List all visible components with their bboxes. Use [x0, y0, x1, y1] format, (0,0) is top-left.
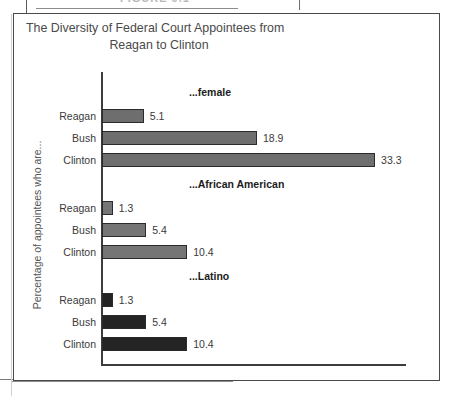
bar-row: Reagan1.3: [14, 201, 441, 216]
bar-value-label: 1.3: [119, 294, 134, 306]
bar-row: Clinton33.3: [14, 153, 441, 168]
bar: [102, 245, 187, 259]
bar: [102, 131, 257, 145]
page-rule-vertical-left: [26, 0, 27, 14]
bar: [102, 337, 187, 351]
bar-row: Reagan1.3: [14, 293, 441, 308]
bar-value-label: 10.4: [193, 338, 213, 350]
bar-category-label: Reagan: [14, 294, 96, 306]
bar-value-label: 5.1: [150, 110, 165, 122]
bar-row: Bush5.4: [14, 223, 441, 238]
bar-value-label: 5.4: [152, 224, 167, 236]
bar-category-label: Reagan: [14, 202, 96, 214]
bar-category-label: Bush: [14, 224, 96, 236]
bar: [102, 293, 113, 307]
page-rule-vertical-mid: [299, 0, 300, 10]
bar-group-title: ...African American: [189, 178, 284, 190]
bar-category-label: Clinton: [14, 338, 96, 350]
bar-value-label: 18.9: [263, 132, 283, 144]
bar-row: Clinton10.4: [14, 337, 441, 352]
bar-value-label: 33.3: [381, 154, 401, 166]
bar-group-2: ...African AmericanReagan1.3Bush5.4Clint…: [14, 178, 441, 266]
bar-row: Bush5.4: [14, 315, 441, 330]
bar-group-1: ...femaleReagan5.1Bush18.9Clinton33.3: [14, 86, 441, 174]
bar-group-title: ...Latino: [189, 270, 229, 282]
bar-value-label: 1.3: [119, 202, 134, 214]
bar-category-label: Reagan: [14, 110, 96, 122]
bar-value-label: 5.4: [152, 316, 167, 328]
bar-category-label: Bush: [14, 132, 96, 144]
bar-category-label: Clinton: [14, 246, 96, 258]
bar-row: Bush18.9: [14, 131, 441, 146]
figure-caption: FIGURE 9.1: [120, 0, 190, 4]
bar-value-label: 10.4: [193, 246, 213, 258]
bar-group-title: ...female: [189, 86, 231, 98]
bar: [102, 223, 146, 237]
bar-row: Clinton10.4: [14, 245, 441, 260]
bar: [102, 315, 146, 329]
bar: [102, 153, 375, 167]
bar: [102, 109, 144, 123]
x-axis-line: [101, 364, 406, 366]
bar-group-3: ...LatinoReagan1.3Bush5.4Clinton10.4: [14, 270, 441, 358]
page-border-left: [11, 14, 12, 396]
plot-area: Percentage of appointees who are... ...f…: [14, 14, 441, 382]
page-rule-top: [36, 8, 238, 9]
bar-category-label: Bush: [14, 316, 96, 328]
chart-frame: The Diversity of Federal Court Appointee…: [13, 13, 440, 381]
bar-row: Reagan5.1: [14, 109, 441, 124]
bar-category-label: Clinton: [14, 154, 96, 166]
bar: [102, 201, 113, 215]
